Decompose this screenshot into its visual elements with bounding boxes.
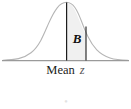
axis-caption: Meanz — [0, 63, 131, 77]
bell-curve-line — [3, 2, 128, 60]
region-label-b: B — [70, 32, 84, 46]
axis-caption-z: z — [80, 63, 85, 77]
normal-distribution-chart — [0, 0, 131, 109]
normal-curve-figure: B Meanz • — [0, 0, 131, 109]
footer-artifact-mark: • — [58, 96, 74, 107]
axis-caption-mean: Mean — [46, 63, 74, 77]
